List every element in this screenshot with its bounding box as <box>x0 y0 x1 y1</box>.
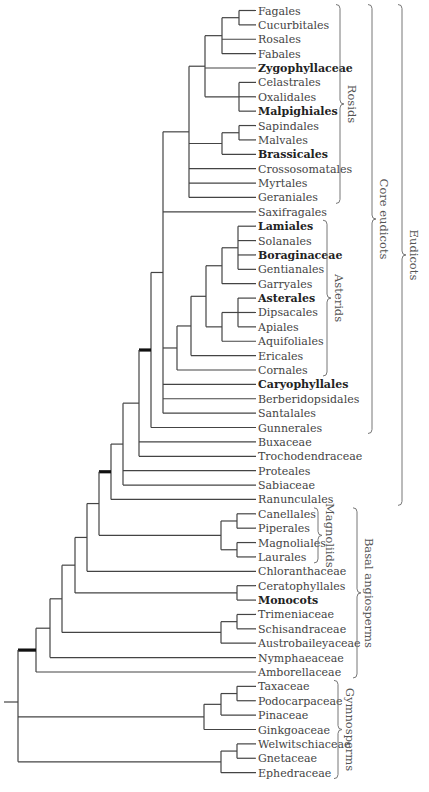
leaf-label-buxaceae: Buxaceae <box>258 436 312 449</box>
leaf-label-trochodendraceae: Trochodendraceae <box>258 450 362 463</box>
leaf-label-podocarpaceae: Podocarpaceae <box>258 695 343 708</box>
bracket-asterids <box>323 220 331 376</box>
leaf-label-saxifragales: Saxifragales <box>258 206 327 219</box>
leaf-label-pinaceae: Pinaceae <box>258 709 308 722</box>
leaf-label-taxaceae: Taxaceae <box>258 680 310 693</box>
leaf-label-cucurbitales: Cucurbitales <box>258 19 330 32</box>
leaf-label-solanales: Solanales <box>258 235 312 248</box>
leaf-label-santalales: Santalales <box>258 407 316 420</box>
leaf-label-gentianales: Gentianales <box>258 263 325 276</box>
leaf-label-garryales: Garryales <box>258 278 313 291</box>
leaf-label-nymphaeaceae: Nymphaeaceae <box>258 652 344 665</box>
leaf-label-berberidopsidales: Berberidopsidales <box>258 393 360 406</box>
leaf-label-ginkgoaceae: Ginkgoaceae <box>258 724 330 737</box>
leaf-label-geraniales: Geraniales <box>258 191 318 204</box>
leaf-label-malpighiales: Malpighiales <box>258 105 338 118</box>
clade-label-eudicots: Eudicots <box>407 230 421 281</box>
leaf-label-lamiales: Lamiales <box>258 220 313 233</box>
leaf-label-cornales: Cornales <box>258 364 308 377</box>
leaf-label-myrtales: Myrtales <box>258 177 308 190</box>
leaf-label-welwitschiaceae: Welwitschiaceae <box>258 738 351 751</box>
clade-label-rosids: Rosids <box>345 85 359 124</box>
leaf-label-celastrales: Celastrales <box>258 76 321 89</box>
leaf-label-ericales: Ericales <box>258 350 304 363</box>
leaf-label-apiales: Apiales <box>257 321 299 334</box>
leaf-label-austrobaileyaceae: Austrobaileyaceae <box>257 637 361 650</box>
leaf-label-asterales: Asterales <box>257 292 315 305</box>
leaf-label-ephedraceae: Ephedraceae <box>258 767 331 780</box>
clade-label-magnoliids: Magnoliids <box>323 503 337 568</box>
leaf-label-trimeniaceae: Trimeniaceae <box>258 608 334 621</box>
bracket-eudicots <box>398 5 406 506</box>
leaf-label-monocots: Monocots <box>258 594 318 607</box>
leaf-label-zygophyllaceae: Zygophyllaceae <box>258 62 353 75</box>
leaf-label-caryophyllales: Caryophyllales <box>258 378 348 391</box>
leaf-label-canellales: Canellales <box>258 508 316 521</box>
leaf-label-ranunculales: Ranunculales <box>258 493 334 506</box>
leaf-label-fabales: Fabales <box>258 48 301 61</box>
leaf-label-magnoliales: Magnoliales <box>258 537 326 550</box>
leaf-label-ceratophyllales: Ceratophyllales <box>258 580 346 593</box>
bracket-core-eudicots <box>368 5 376 434</box>
leaf-label-gnetaceae: Gnetaceae <box>258 752 317 765</box>
tree-branches <box>4 11 256 773</box>
leaf-label-crossosomatales: Crossosomatales <box>258 163 352 176</box>
leaf-label-oxalidales: Oxalidales <box>258 91 316 104</box>
clade-label-core-eudicots: Core eudicots <box>377 179 391 260</box>
leaf-label-gunnerales: Gunnerales <box>258 422 322 435</box>
leaf-label-aquifoliales: Aquifoliales <box>257 335 324 348</box>
leaf-label-rosales: Rosales <box>258 33 301 46</box>
leaf-label-schisandraceae: Schisandraceae <box>258 623 346 636</box>
leaf-label-malvales: Malvales <box>258 134 308 147</box>
clade-label-basal-angiosperms: Basal angiosperms <box>362 538 376 648</box>
leaf-label-proteales: Proteales <box>258 465 311 478</box>
leaf-label-fagales: Fagales <box>258 5 301 18</box>
clade-label-gymnosperms: Gymnosperms <box>343 688 357 771</box>
leaf-label-boraginaceae: Boraginaceae <box>258 249 342 262</box>
clade-label-asterids: Asterids <box>332 273 346 322</box>
leaf-label-piperales: Piperales <box>258 522 310 535</box>
leaf-label-amborellaceae: Amborellaceae <box>257 666 341 679</box>
leaf-label-dipsacales: Dipsacales <box>258 306 318 319</box>
phylogenetic-tree: FagalesCucurbitalesRosalesFabalesZygophy… <box>0 0 429 792</box>
leaf-label-sabiaceae: Sabiaceae <box>258 479 315 492</box>
bracket-basal-angiosperms <box>353 508 361 678</box>
leaf-label-laurales: Laurales <box>258 551 307 564</box>
leaf-label-brassicales: Brassicales <box>258 148 328 161</box>
leaf-label-sapindales: Sapindales <box>258 120 319 133</box>
